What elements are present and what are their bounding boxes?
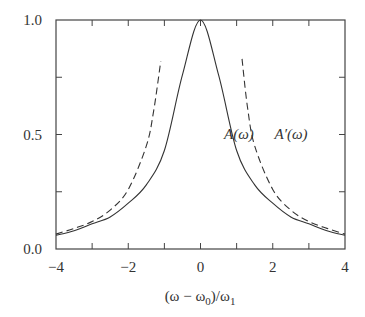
- x-tick-label: 0: [197, 259, 205, 275]
- x-axis-title-mid: )/ω: [211, 288, 230, 305]
- chart: −4−20240.00.51.0 A(ω)A′(ω) (ω − ω0)/ω1: [0, 0, 365, 317]
- y-tick-label: 0.5: [23, 127, 42, 143]
- x-tick-label: 4: [341, 259, 349, 275]
- x-tick-label: 2: [269, 259, 277, 275]
- x-tick-label: −2: [120, 259, 136, 275]
- label-a-prime: A′(ω): [274, 126, 308, 143]
- x-axis-title-main: (ω − ω: [165, 288, 206, 305]
- y-tick-label: 0.0: [23, 241, 42, 257]
- x-tick-label: −4: [48, 259, 64, 275]
- x-axis-title: (ω − ω0)/ω1: [165, 288, 236, 307]
- tick-labels: −4−20240.00.51.0: [23, 12, 349, 275]
- dashed-curve-a-prime: [56, 61, 161, 234]
- label-a: A(ω): [223, 126, 254, 143]
- annotations: A(ω)A′(ω): [223, 126, 308, 143]
- dashed-curve-a-prime: [242, 59, 345, 234]
- y-tick-label: 1.0: [23, 12, 42, 28]
- x-axis-title-sub1: 1: [230, 295, 236, 307]
